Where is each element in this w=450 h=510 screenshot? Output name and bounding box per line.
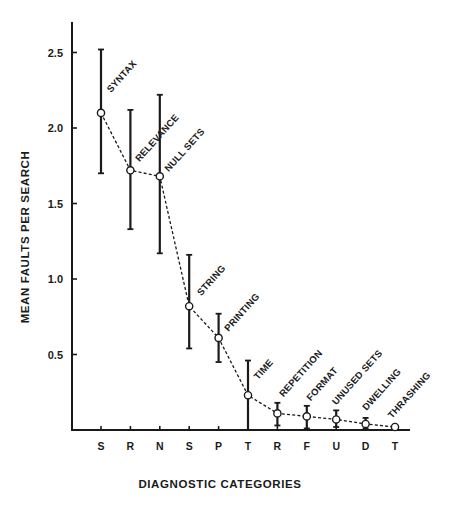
category-annotation: TIME — [251, 357, 275, 382]
data-point — [274, 410, 281, 417]
x-tick-label: S — [97, 440, 104, 452]
x-tick-label: T — [245, 440, 252, 452]
x-tick-label: R — [127, 440, 135, 452]
chart: 0.51.01.52.02.5 SRNSPTRFUDT SYNTAXRELEVA… — [0, 0, 450, 510]
category-annotation: STRING — [195, 263, 228, 298]
data-point — [215, 334, 222, 341]
data-point — [156, 173, 163, 180]
y-tick-label: 2.0 — [48, 122, 63, 134]
category-annotation: SYNTAX — [104, 58, 139, 95]
y-tick-label: 2.5 — [48, 47, 63, 59]
x-tick-label: R — [274, 440, 282, 452]
data-point — [362, 420, 369, 427]
data-point — [244, 392, 251, 399]
y-axis-title: MEAN FAULTS PER SEARCH — [19, 151, 31, 324]
data-point — [391, 423, 398, 430]
x-tick-label: P — [215, 440, 222, 452]
x-tick-label: U — [332, 440, 340, 452]
data-point — [333, 416, 340, 423]
data-point — [303, 413, 310, 420]
category-annotations: SYNTAXRELEVANCENULL SETSSTRINGPRINTINGTI… — [104, 58, 432, 421]
category-annotation: NULL SETS — [162, 126, 207, 174]
data-point — [127, 167, 134, 174]
x-tick-label: T — [392, 440, 399, 452]
x-tick-label: F — [304, 440, 311, 452]
data-point — [97, 109, 104, 116]
y-tick-label: 0.5 — [48, 349, 63, 361]
y-tick-label: 1.0 — [48, 273, 63, 285]
category-annotation: PRINTING — [222, 291, 262, 333]
y-tick-label: 1.5 — [48, 198, 63, 210]
x-axis-title: DIAGNOSTIC CATEGORIES — [138, 478, 301, 490]
x-tick-label: N — [156, 440, 164, 452]
data-point — [186, 303, 193, 310]
x-tick-label: S — [186, 440, 193, 452]
x-tick-label: D — [362, 440, 370, 452]
